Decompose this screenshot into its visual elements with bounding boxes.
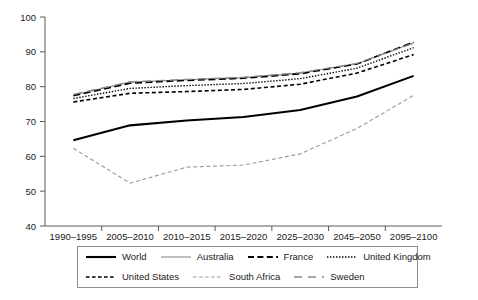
- series-line-south-africa: [73, 95, 413, 183]
- legend-entry-south-africa[interactable]: South Africa: [193, 272, 280, 282]
- legend-label: World: [122, 252, 147, 262]
- chart-figure: 100908070605040 1990–19952005–20102010–2…: [0, 0, 478, 300]
- legend-label: Sweden: [330, 272, 364, 282]
- x-tick-label: 2015–2020: [220, 231, 268, 242]
- legend-entry-australia[interactable]: Australia: [161, 252, 234, 262]
- x-tick-label: 2025–2030: [276, 231, 324, 242]
- legend-line-swatch: [193, 272, 223, 282]
- legend-line-swatch: [86, 252, 116, 262]
- legend-entry-united-kingdom[interactable]: United Kingdom: [327, 252, 431, 262]
- legend-label: France: [284, 252, 314, 262]
- legend-entry-united-states[interactable]: United States: [86, 272, 179, 282]
- y-tick-label: 90: [25, 46, 36, 57]
- series-line-sweden: [73, 43, 413, 94]
- y-tick-label: 80: [25, 81, 36, 92]
- y-tick-label: 50: [25, 186, 36, 197]
- y-tick-label: 40: [25, 221, 36, 232]
- y-tick-label: 100: [20, 12, 36, 23]
- x-tick-label: 2045–2050: [333, 231, 381, 242]
- y-axis-ticks: [40, 17, 45, 226]
- legend-entry-france[interactable]: France: [248, 252, 314, 262]
- legend-line-swatch: [248, 252, 278, 262]
- y-tick-label: 70: [25, 116, 36, 127]
- series-line-australia: [73, 43, 413, 95]
- legend-row-first: WorldAustraliaFranceUnited Kingdom: [78, 247, 417, 267]
- x-tick-label: 2095–2100: [390, 231, 438, 242]
- x-tick-label: 2010–2015: [163, 231, 211, 242]
- plot-area: 100908070605040 1990–19952005–20102010–2…: [0, 0, 478, 240]
- legend-line-swatch: [86, 272, 116, 282]
- legend-label: Australia: [197, 252, 234, 262]
- y-axis-tick-labels: 100908070605040: [20, 12, 36, 232]
- legend-entry-sweden[interactable]: Sweden: [294, 272, 364, 282]
- line-chart-svg: 100908070605040 1990–19952005–20102010–2…: [0, 0, 478, 245]
- x-tick-label: 2005–2010: [106, 231, 154, 242]
- y-tick-label: 60: [25, 151, 36, 162]
- legend-entry-world[interactable]: World: [86, 252, 147, 262]
- x-axis-tick-labels: 1990–19952005–20102010–20152015–20202025…: [50, 231, 438, 242]
- legend-label: United Kingdom: [363, 252, 431, 262]
- legend-label: South Africa: [229, 272, 280, 282]
- legend-line-swatch: [294, 272, 324, 282]
- series-line-world: [73, 76, 413, 140]
- data-series-group: [73, 42, 413, 183]
- legend-row-second: United StatesSouth AfricaSweden: [78, 267, 417, 287]
- chart-legend: WorldAustraliaFranceUnited Kingdom Unite…: [77, 246, 418, 288]
- series-line-united-kingdom: [73, 48, 413, 99]
- legend-line-swatch: [327, 252, 357, 262]
- legend-line-swatch: [161, 252, 191, 262]
- series-line-france: [73, 42, 413, 96]
- x-tick-label: 1990–1995: [50, 231, 98, 242]
- legend-label: United States: [122, 272, 179, 282]
